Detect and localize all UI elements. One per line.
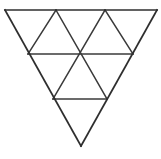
figure-container xyxy=(0,0,161,159)
figure-background xyxy=(0,0,161,159)
triangle-grid-figure xyxy=(0,0,161,159)
